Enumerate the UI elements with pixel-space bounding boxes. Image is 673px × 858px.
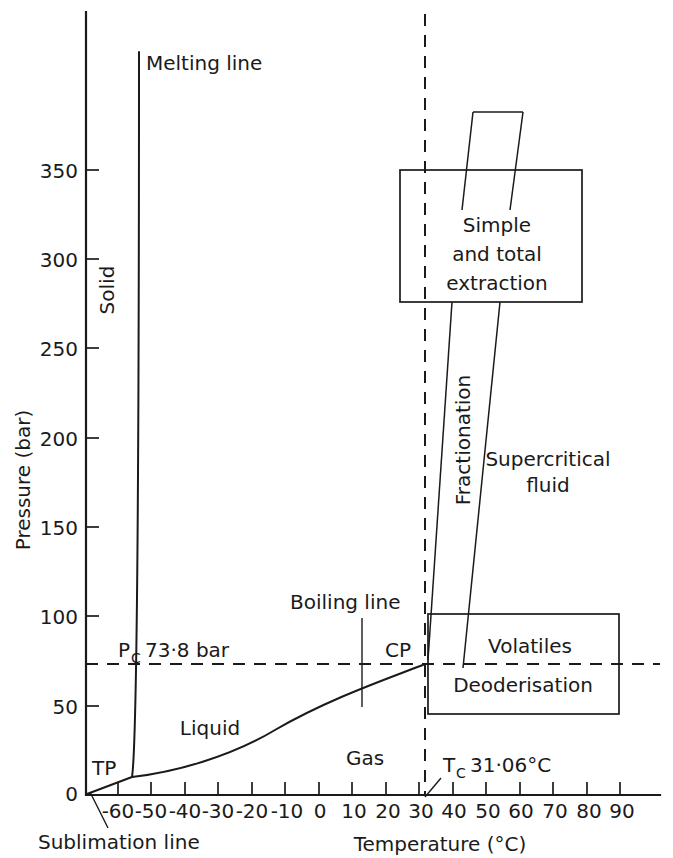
x-tick-label-m20: -20 [236, 799, 269, 823]
phase-boundaries [87, 52, 425, 794]
y-tick-label-200: 200 [40, 427, 78, 451]
x-tick-label-m40: -40 [169, 799, 202, 823]
pc-subscript: C [131, 650, 141, 666]
x-tick-label-90: 90 [609, 799, 634, 823]
pc-value: 73·8 bar [145, 638, 230, 662]
tc-subscript: C [456, 765, 466, 781]
x-tick-label-50: 50 [475, 799, 500, 823]
y-tick-label-300: 300 [40, 248, 78, 272]
x-tick-label-60: 60 [508, 799, 533, 823]
y-tick-label-50: 50 [53, 695, 78, 719]
fractionation-left-line [428, 302, 452, 660]
y-tick-label-100: 100 [40, 605, 78, 629]
x-tick-label-70: 70 [542, 799, 567, 823]
fractionation-label: Fractionation [451, 375, 475, 505]
x-axis-title: Temperature (°C) [353, 832, 527, 856]
label-critical-point: CP [385, 638, 411, 662]
x-tick-label-m50: -50 [135, 799, 168, 823]
x-axis-tick-labels: -60 -50 -40 -30 -20 -10 0 10 20 30 40 50… [102, 799, 635, 823]
x-tick-label-m10: -10 [271, 799, 304, 823]
label-boiling-line: Boiling line [290, 590, 400, 614]
extraction-label-line3: extraction [446, 271, 547, 295]
label-sublimation-line: Sublimation line [38, 830, 200, 854]
y-tick-label-350: 350 [40, 159, 78, 183]
x-tick-label-m60: -60 [102, 799, 135, 823]
axis-titles: Pressure (bar) Temperature (°C) [11, 410, 526, 856]
x-tick-label-m30: -30 [202, 799, 235, 823]
x-tick-label-80: 80 [576, 799, 601, 823]
phase-diagram-figure: 350 300 250 200 150 100 50 0 -60 -50 -40… [0, 0, 673, 858]
y-axis-title: Pressure (bar) [11, 410, 35, 551]
x-axis-ticks [118, 782, 620, 795]
x-tick-label-30: 30 [408, 799, 433, 823]
x-tick-label-0: 0 [314, 799, 327, 823]
pc-symbol: P [118, 638, 130, 662]
region-label-liquid: Liquid [180, 716, 240, 740]
y-tick-label-250: 250 [40, 337, 78, 361]
y-axis-tick-labels: 350 300 250 200 150 100 50 0 [40, 159, 78, 806]
label-melting-line: Melting line [146, 51, 262, 75]
extraction-label-line2: and total [452, 242, 542, 266]
region-label-gas: Gas [346, 746, 384, 770]
critical-pressure-label: P C 73·8 bar [118, 638, 230, 666]
extraction-callout: Simple and total extraction [400, 112, 582, 302]
melting-line-curve [132, 52, 139, 777]
region-label-solid: Solid [95, 266, 119, 315]
extraction-label-line1: Simple [463, 213, 531, 237]
tc-symbol: T [442, 753, 456, 777]
deoderisation-label: Deoderisation [453, 673, 593, 697]
region-label-supercritical-line2: fluid [526, 473, 570, 497]
x-tick-label-40: 40 [441, 799, 466, 823]
label-triple-point: TP [91, 756, 116, 780]
x-tick-label-10: 10 [341, 799, 366, 823]
extraction-connector-right-upper [510, 112, 523, 210]
extraction-connector-left-upper [462, 112, 473, 210]
y-tick-label-150: 150 [40, 516, 78, 540]
y-axis-ticks [86, 170, 99, 706]
tc-value: 31·06°C [470, 753, 551, 777]
phase-diagram-svg: 350 300 250 200 150 100 50 0 -60 -50 -40… [0, 0, 673, 858]
y-tick-label-0: 0 [65, 782, 78, 806]
critical-temperature-label: T C 31·06°C [425, 753, 551, 797]
volatiles-label: Volatiles [488, 634, 572, 658]
region-label-supercritical-line1: Supercritical [485, 447, 610, 471]
x-tick-label-20: 20 [375, 799, 400, 823]
fractionation-callout: Fractionation [428, 302, 500, 668]
